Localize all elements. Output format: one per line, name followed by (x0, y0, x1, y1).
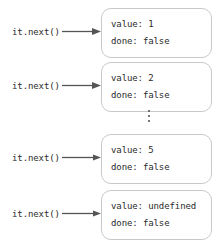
result-box-3: value: 5 done: false (101, 134, 212, 184)
result-done-3: done: false (111, 159, 211, 176)
ellipsis-dot (148, 120, 150, 122)
right-arrow-icon-4 (62, 209, 101, 218)
ellipsis-dot (148, 110, 150, 112)
result-box-4: value: undefined done: false (101, 190, 212, 240)
next-call-label-3: it.next() (12, 152, 60, 164)
result-box-2: value: 2 done: false (101, 62, 212, 112)
vertical-ellipsis-icon (144, 110, 154, 122)
result-value-1: value: 1 (111, 16, 211, 33)
next-call-label-4: it.next() (12, 208, 60, 220)
result-done-2: done: false (111, 87, 211, 104)
next-call-label-2: it.next() (12, 80, 60, 92)
right-arrow-icon-2 (62, 81, 101, 90)
iterator-next-diagram: it.next() value: 1 done: false it.next()… (0, 0, 220, 244)
result-done-4: done: false (111, 215, 211, 232)
right-arrow-icon-1 (62, 27, 101, 36)
result-box-1: value: 1 done: false (101, 8, 212, 58)
right-arrow-icon-3 (62, 153, 101, 162)
result-value-4: value: undefined (111, 198, 211, 215)
next-call-label-1: it.next() (12, 26, 60, 38)
result-done-1: done: false (111, 33, 211, 50)
ellipsis-dot (148, 115, 150, 117)
result-value-3: value: 5 (111, 142, 211, 159)
result-value-2: value: 2 (111, 70, 211, 87)
